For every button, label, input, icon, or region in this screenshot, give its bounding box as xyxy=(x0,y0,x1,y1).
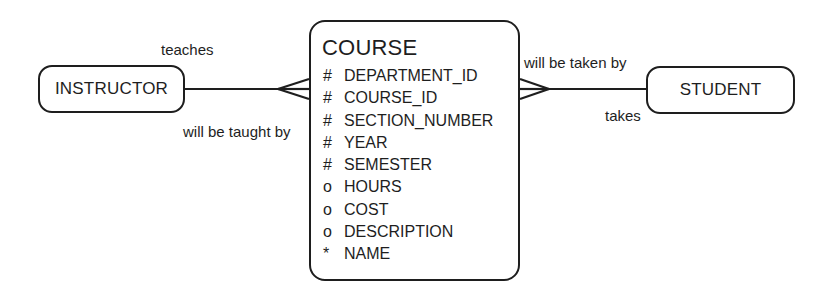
entity-course[interactable]: COURSE # DEPARTMENT_ID # COURSE_ID # SEC… xyxy=(309,20,520,281)
attribute-name: COURSE_ID xyxy=(344,87,437,109)
attribute-row: o DESCRIPTION xyxy=(322,221,493,243)
label-will-be-taken-by: will be taken by xyxy=(524,54,627,71)
attribute-row: # SECTION_NUMBER xyxy=(322,110,493,132)
attribute-name: NAME xyxy=(344,243,390,265)
attribute-row: # SEMESTER xyxy=(322,154,493,176)
attribute-row: # YEAR xyxy=(322,132,493,154)
attribute-name: SEMESTER xyxy=(344,154,432,176)
crows-foot-icon-right xyxy=(520,79,549,99)
attribute-name: DESCRIPTION xyxy=(344,221,453,243)
attribute-row: o COST xyxy=(322,199,493,221)
unique-identifier-icon: # xyxy=(322,154,344,176)
unique-identifier-icon: # xyxy=(322,87,344,109)
optional-icon: o xyxy=(322,221,344,243)
label-will-be-taught-by: will be taught by xyxy=(183,123,291,140)
entity-course-name: COURSE xyxy=(322,36,417,60)
optional-icon: o xyxy=(322,176,344,198)
unique-identifier-icon: # xyxy=(322,132,344,154)
entity-student-name: STUDENT xyxy=(680,80,762,100)
attribute-row: # DEPARTMENT_ID xyxy=(322,65,493,87)
entity-instructor[interactable]: INSTRUCTOR xyxy=(38,65,185,113)
attribute-name: SECTION_NUMBER xyxy=(344,110,493,132)
attribute-row: * NAME xyxy=(322,243,493,265)
attribute-row: # COURSE_ID xyxy=(322,87,493,109)
unique-identifier-icon: # xyxy=(322,65,344,87)
entity-student[interactable]: STUDENT xyxy=(646,66,795,114)
er-diagram: teaches will be taught by will be taken … xyxy=(0,0,826,298)
attribute-row: o HOURS xyxy=(322,176,493,198)
crows-foot-icon-left xyxy=(278,79,309,99)
mandatory-icon: * xyxy=(322,243,344,265)
label-teaches: teaches xyxy=(161,41,214,58)
attribute-name: YEAR xyxy=(344,132,388,154)
label-takes: takes xyxy=(605,107,641,124)
attribute-name: DEPARTMENT_ID xyxy=(344,65,478,87)
optional-icon: o xyxy=(322,199,344,221)
unique-identifier-icon: # xyxy=(322,110,344,132)
attribute-name: COST xyxy=(344,199,388,221)
entity-instructor-name: INSTRUCTOR xyxy=(55,79,168,99)
attribute-name: HOURS xyxy=(344,176,402,198)
attribute-list: # DEPARTMENT_ID # COURSE_ID # SECTION_NU… xyxy=(322,65,493,266)
